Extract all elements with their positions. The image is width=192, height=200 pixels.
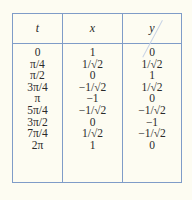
cell-y: −1/√2 xyxy=(123,105,181,117)
cell-y: 0 xyxy=(123,140,181,152)
header-x: x xyxy=(63,14,122,43)
values-table: t x y 0 π/4 π/2 3π/4 π 5π/4 3π/2 7π/4 2π… xyxy=(12,13,182,183)
cell-t: 2π xyxy=(13,140,62,152)
table-body: 0 π/4 π/2 3π/4 π 5π/4 3π/2 7π/4 2π 1 1/√… xyxy=(13,43,181,182)
cell-t: 5π/4 xyxy=(13,105,62,117)
cell-y: −1/√2 xyxy=(123,128,181,140)
cell-x: −1/√2 xyxy=(63,105,122,117)
cell-x: 1 xyxy=(63,140,122,152)
cell-x: 1/√2 xyxy=(63,128,122,140)
column-x: 1 1/√2 0 −1/√2 −1 −1/√2 0 1/√2 1 xyxy=(62,43,122,182)
column-t: 0 π/4 π/2 3π/4 π 5π/4 3π/2 7π/4 2π xyxy=(13,43,62,182)
cell-y: 0 xyxy=(123,47,181,59)
cell-x: 1 xyxy=(63,47,122,59)
cell-t: 0 xyxy=(13,47,62,59)
cell-t: 7π/4 xyxy=(13,128,62,140)
column-y: 0 1/√2 1 1/√2 0 −1/√2 −1 −1/√2 0 xyxy=(122,43,181,182)
header-t: t xyxy=(13,14,62,43)
